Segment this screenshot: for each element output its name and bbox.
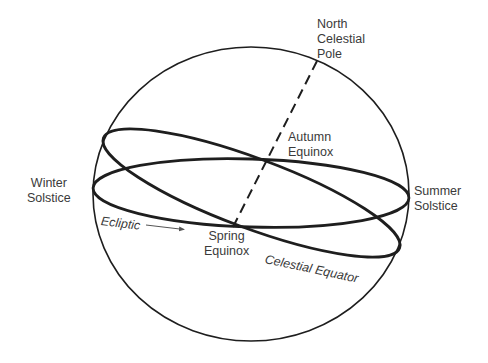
label-line: Spring (204, 229, 249, 243)
label-line: Celestial (317, 32, 365, 46)
label-line: North (317, 17, 365, 31)
celestial-sphere-diagram: North Celestial Pole Autumn Equinox Wint… (0, 0, 488, 363)
label-summer-solstice: Summer Solstice (414, 184, 461, 213)
label-line: Winter (27, 176, 71, 190)
label-line: Equinox (288, 145, 333, 159)
ecliptic-arrow-icon (146, 225, 184, 230)
label-line: Solstice (414, 199, 461, 213)
label-line: Pole (317, 47, 365, 61)
label-autumn-equinox: Autumn Equinox (288, 130, 333, 159)
label-line: Autumn (288, 130, 333, 144)
label-spring-equinox: Spring Equinox (204, 229, 249, 258)
label-line: Solstice (27, 191, 71, 205)
label-line: Equinox (204, 244, 249, 258)
diagram-figure (0, 0, 488, 363)
label-line: Summer (414, 184, 461, 198)
label-winter-solstice: Winter Solstice (27, 176, 71, 205)
label-north-celestial-pole: North Celestial Pole (317, 17, 365, 61)
celestial-sphere-outline (93, 47, 409, 341)
tilted-great-circle (91, 105, 412, 281)
